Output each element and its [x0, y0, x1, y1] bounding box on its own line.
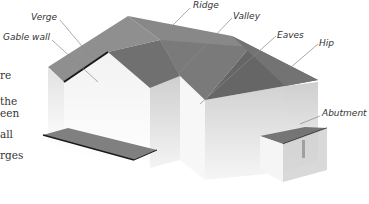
roof-diagram: re the een all rges Verge Gable wall Rid…	[0, 0, 369, 204]
label-gable-wall: Gable wall	[3, 33, 50, 42]
cropped-text-line-1: re	[0, 70, 11, 81]
label-eaves: Eaves	[277, 31, 304, 40]
abutment-canopy	[260, 127, 327, 182]
cropped-text-line-5: rges	[0, 150, 23, 161]
label-valley: Valley	[233, 12, 260, 21]
label-verge: Verge	[31, 13, 57, 22]
cropped-text-line-2: the	[0, 96, 17, 107]
label-hip: Hip	[319, 39, 334, 48]
cropped-text-line-3: een	[0, 108, 19, 119]
cropped-text-line-4: all	[0, 129, 13, 140]
label-abutment: Abutment	[322, 109, 367, 118]
house-illustration	[0, 0, 369, 204]
label-ridge: Ridge	[193, 1, 219, 10]
